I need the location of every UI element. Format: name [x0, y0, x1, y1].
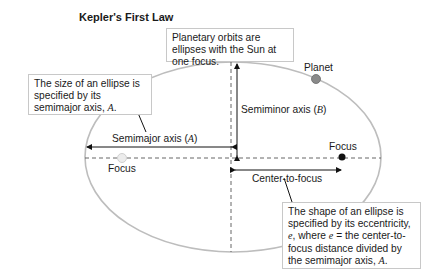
semiminor-label: Semiminor axis (B)	[241, 104, 327, 115]
top-callout: Planetary orbits are ellipses with the S…	[166, 28, 294, 62]
planet-icon	[312, 75, 321, 84]
semimajor-label: Semimajor axis (A)	[112, 133, 198, 144]
center-to-focus-label: Center-to-focus	[252, 173, 322, 184]
sun-focus-icon	[339, 154, 346, 161]
right-focus-label: Focus	[329, 141, 357, 152]
left-focus-label: Focus	[108, 163, 136, 174]
empty-focus-icon	[118, 154, 127, 163]
diagram-title: Kepler's First Law	[79, 11, 173, 23]
left-callout-leader	[138, 113, 146, 132]
planet-label: Planet	[304, 62, 333, 73]
left-callout: The size of an ellipse is specified by i…	[28, 74, 152, 115]
right-callout: The shape of an ellipse is specified by …	[282, 202, 421, 269]
